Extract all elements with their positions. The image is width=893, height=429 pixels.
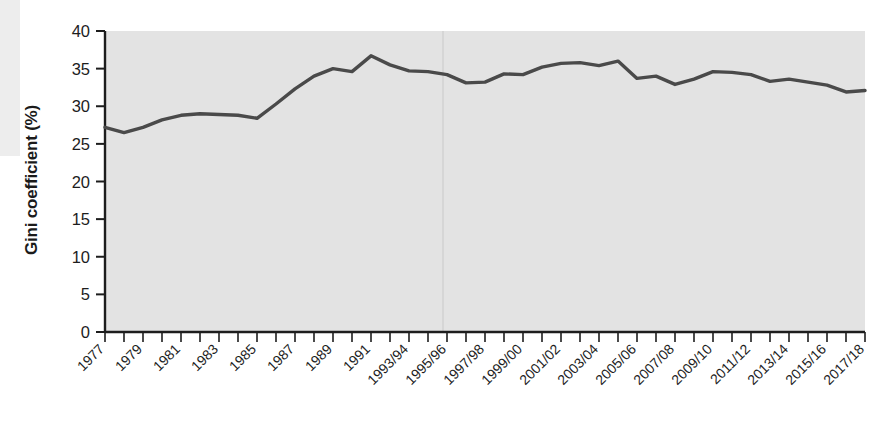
- x-tick-label: 2001/02: [516, 341, 563, 388]
- y-tick-label: 25: [72, 135, 90, 153]
- x-tick-label: 1977: [74, 341, 107, 374]
- x-axis-tick-labels: 197719791981198319851987198919911993/941…: [74, 341, 867, 388]
- chart-svg: 0510152025303540 19771979198119831985198…: [0, 0, 893, 429]
- y-axis-ticks: 0510152025303540: [72, 22, 105, 341]
- x-tick-label: 1991: [340, 341, 373, 374]
- x-tick-label: 1993/94: [364, 341, 411, 388]
- y-axis-label: Gini coefficient (%): [22, 30, 42, 330]
- x-tick-label: 1999/00: [478, 341, 525, 388]
- x-tick-label: 1995/96: [402, 341, 449, 388]
- y-tick-label: 15: [72, 210, 90, 228]
- x-tick-label: 1983: [188, 341, 221, 374]
- x-tick-label: 2007/08: [630, 341, 677, 388]
- x-tick-label: 2015/16: [782, 341, 829, 388]
- x-tick-label: 1985: [226, 341, 259, 374]
- chart-figure: Gini coefficient (%) 0510152025303540 19…: [0, 0, 893, 429]
- x-tick-label: 2005/06: [592, 341, 639, 388]
- y-tick-label: 20: [72, 173, 90, 191]
- y-tick-label: 30: [72, 97, 90, 115]
- x-tick-label: 1979: [112, 341, 145, 374]
- y-tick-label: 35: [72, 60, 90, 78]
- x-tick-label: 2009/10: [668, 341, 715, 388]
- x-axis-ticks: [105, 332, 865, 342]
- x-tick-label: 1987: [264, 341, 297, 374]
- x-tick-label: 2013/14: [744, 341, 791, 388]
- y-tick-label: 10: [72, 248, 90, 266]
- x-tick-label: 2017/18: [820, 341, 867, 388]
- x-tick-label: 1981: [150, 341, 183, 374]
- scan-artifact-band: [0, 0, 20, 156]
- x-tick-label: 2003/04: [554, 341, 601, 388]
- y-tick-label: 0: [81, 323, 90, 341]
- y-tick-label: 5: [81, 285, 90, 303]
- y-tick-label: 40: [72, 22, 90, 40]
- x-tick-label: 1989: [302, 341, 335, 374]
- x-tick-label: 1997/98: [440, 341, 487, 388]
